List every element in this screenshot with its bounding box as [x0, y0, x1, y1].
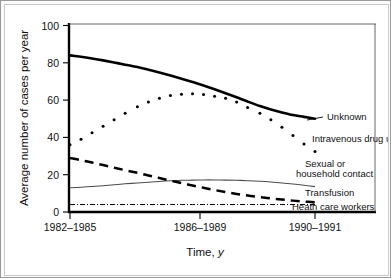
series-dot [102, 125, 105, 128]
series-dot [291, 134, 294, 137]
series-dot [136, 105, 139, 108]
series-dot [113, 118, 116, 121]
series-dot [91, 131, 94, 134]
series-dot [302, 142, 305, 145]
x-tick-label-1982-1985: 1982–1985 [44, 221, 97, 233]
y-tick-label-100: 100 [41, 20, 59, 32]
y-tick-label-80: 80 [47, 57, 59, 69]
series-dot [269, 118, 272, 121]
figure-frame: 100 80 60 40 20 0 Average number of case… [4, 4, 389, 276]
y-tick-label-60: 60 [47, 94, 59, 106]
x-axis-title: Time, y [186, 246, 225, 258]
series-annotation-sexual-or-household-contact-line2: household contact [296, 168, 373, 179]
series-annotation-transfusion: Transfusion [305, 187, 354, 198]
series-dot [280, 126, 283, 129]
y-tick-label-40: 40 [47, 131, 59, 143]
y-axis-title: Average number of cases per year [18, 30, 30, 206]
series-dot [191, 92, 194, 95]
series-dot [180, 93, 183, 96]
figure-container: 100 80 60 40 20 0 Average number of case… [0, 0, 391, 278]
series-dot [202, 93, 205, 96]
series-dot [235, 100, 238, 103]
series-dot [69, 143, 72, 146]
cases-per-year-line-chart: 100 80 60 40 20 0 Average number of case… [5, 5, 388, 275]
series-dot [213, 95, 216, 98]
series-dot [158, 97, 161, 100]
y-tick-label-20: 20 [47, 169, 59, 181]
series-dot [169, 94, 172, 97]
series-annotation-intravenous-drug-use: Intravenous drug use [312, 133, 388, 144]
series-dot [124, 112, 127, 115]
x-axis-title-prefix: Time, [186, 246, 218, 258]
series-dot [80, 138, 83, 141]
series-dot [314, 150, 317, 153]
x-tick-label-1990-1991: 1990–1991 [289, 221, 342, 233]
series-annotation-unknown: Unknown [327, 111, 367, 122]
series-dot [147, 100, 150, 103]
y-tick-label-0: 0 [53, 206, 59, 218]
series-dot [246, 106, 249, 109]
series-annotation-heath-care-workers: Heath care workers [292, 201, 375, 212]
x-tick-label-1986-1989: 1986–1989 [174, 221, 227, 233]
series-dot [258, 112, 261, 115]
x-axis-title-variable: y [217, 246, 225, 258]
series-dot [224, 97, 227, 100]
